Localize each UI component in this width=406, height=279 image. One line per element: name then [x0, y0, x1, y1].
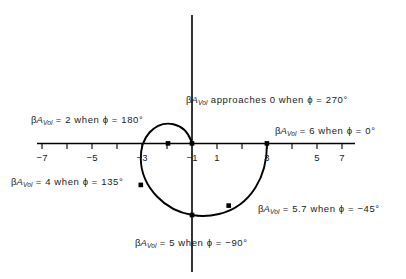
marker-phi-135: [139, 183, 144, 188]
vol-subscript: Vol: [43, 119, 53, 126]
x-tick-label-1: 1: [206, 152, 228, 163]
annotation-phi-270: βAVol approaches 0 when ϕ = 270°: [186, 94, 348, 105]
marker-origin: [190, 141, 195, 146]
data-point-markers: [139, 141, 270, 217]
marker-phi-180: [166, 141, 171, 146]
x-tick-label-3: 3: [256, 152, 278, 163]
marker-phi-m90: [190, 213, 195, 218]
annotation-phi-minus-90-text: = 5 when ϕ = −90°: [157, 237, 248, 248]
vol-subscript: Vol: [23, 181, 33, 188]
vol-subscript: Vol: [147, 242, 157, 249]
marker-phi-0: [265, 141, 270, 146]
x-tick-label--1: −1: [181, 152, 203, 163]
x-tick-label--5: −5: [81, 152, 103, 163]
annotation-phi-135: βAVol = 4 when ϕ = 135°: [11, 176, 123, 187]
annotation-phi-minus-45-text: = 5.7 when ϕ = −45°: [280, 203, 380, 214]
annotation-phi-0: βAVol = 6 when ϕ = 0°: [275, 125, 376, 136]
annotation-phi-0-text: = 6 when ϕ = 0°: [297, 125, 376, 136]
vol-subscript: Vol: [270, 208, 280, 215]
annotation-phi-minus-45: βAVol = 5.7 when ϕ = −45°: [258, 203, 380, 214]
annotation-phi-180-text: = 2 when ϕ = 180°: [53, 114, 144, 125]
annotation-phi-180: βAVol = 2 when ϕ = 180°: [31, 114, 143, 125]
annotation-phi-minus-90: βAVol = 5 when ϕ = −90°: [135, 237, 248, 248]
vol-subscript: Vol: [198, 99, 208, 106]
annotation-phi-135-text: = 4 when ϕ = 135°: [33, 176, 124, 187]
x-tick-label-7: 7: [331, 152, 353, 163]
x-tick-label--3: −3: [131, 152, 153, 163]
x-tick-label--7: −7: [31, 152, 53, 163]
annotation-phi-270-text: approaches 0 when ϕ = 270°: [208, 94, 348, 105]
figure-canvas: −7 −5 −3 −1 1 3 5 7 βAVol approaches 0 w…: [0, 0, 406, 279]
marker-phi-m45: [226, 203, 231, 208]
response-curve: [141, 124, 267, 216]
vol-subscript: Vol: [287, 130, 297, 137]
x-tick-label-5: 5: [306, 152, 328, 163]
